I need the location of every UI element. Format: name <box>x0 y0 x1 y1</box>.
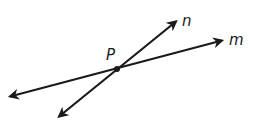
point-p-label: P <box>106 46 116 64</box>
line-n-label: n <box>182 12 192 30</box>
intersecting-lines-diagram: P n m <box>0 0 253 137</box>
line-m-label: m <box>229 31 244 49</box>
point-p <box>114 66 120 72</box>
